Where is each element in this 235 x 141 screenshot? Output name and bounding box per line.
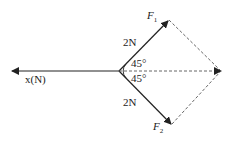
parallelogram-side-top	[169, 20, 221, 71]
f1-magnitude: 2N	[123, 37, 136, 48]
force-diagram: F1 2N 45° 45° 2N F2 x(N)	[0, 0, 235, 141]
f2-magnitude: 2N	[123, 97, 136, 108]
f1-label: F1	[147, 10, 157, 24]
f2-label: F2	[153, 121, 163, 135]
angle-bottom-label: 45°	[131, 73, 146, 84]
diagram-graphics	[0, 0, 235, 141]
parallelogram-side-bottom	[172, 71, 221, 124]
x-axis-label: x(N)	[25, 74, 46, 85]
angle-top-label: 45°	[131, 58, 146, 69]
